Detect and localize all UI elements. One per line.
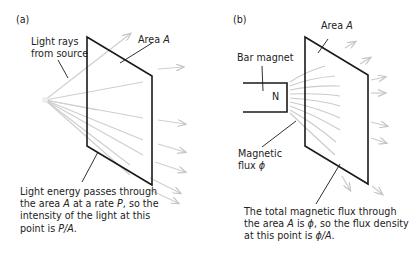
caption-a-line3: intensity of the light at this: [20, 210, 159, 222]
caption-text: the area: [20, 198, 63, 209]
label-area-a: Area A: [138, 34, 170, 46]
caption-text: point is: [20, 223, 58, 234]
label-bar-magnet: Bar magnet: [237, 52, 294, 64]
label-light-rays-line2: from source: [31, 48, 88, 60]
caption-text: the area: [244, 218, 287, 229]
caption-symbol: P/A: [58, 223, 74, 234]
caption-symbol: A: [63, 198, 70, 209]
label-light-rays: Light rays from source: [31, 36, 88, 60]
label-area-a-symbol: A: [163, 34, 170, 45]
caption-text: , so the: [123, 198, 159, 209]
label-flux-line2: flux ϕ: [238, 160, 282, 172]
caption-symbol: ϕ/A: [315, 230, 331, 241]
caption-a-line1: Light energy passes through: [20, 186, 159, 198]
label-magnetic-flux: Magnetic flux ϕ: [238, 148, 282, 172]
label-flux-line1: Magnetic: [238, 148, 282, 160]
caption-text: , so the flux density: [314, 218, 409, 229]
caption-text: at a rate: [70, 198, 117, 209]
caption-a-line4: point is P/A.: [20, 223, 159, 235]
caption-b: The total magnetic flux through the area…: [244, 206, 409, 243]
caption-b-line2: the area A is ϕ, so the flux density: [244, 218, 409, 230]
panel-a-tag: (a): [16, 14, 29, 26]
caption-text: .: [74, 223, 77, 234]
caption-b-line1: The total magnetic flux through: [244, 206, 409, 218]
label-flux-symbol: ϕ: [259, 160, 265, 171]
label-flux-text: flux: [238, 160, 259, 171]
label-area-b: Area A: [321, 20, 353, 32]
label-area-a-text: Area: [138, 34, 163, 45]
label-area-b-symbol: A: [346, 20, 353, 31]
caption-symbol: A: [287, 218, 294, 229]
caption-text: .: [332, 230, 335, 241]
caption-a: Light energy passes through the area A a…: [20, 186, 159, 235]
bar-magnet: [243, 83, 287, 112]
magnet-pole-label: N: [272, 91, 279, 103]
caption-b-line3: at this point is ϕ/A.: [244, 230, 409, 242]
panel-b-tag: (b): [233, 14, 247, 26]
caption-a-line2: the area A at a rate P, so the: [20, 198, 159, 210]
area-plate-b: [305, 37, 368, 184]
caption-text: is: [294, 218, 308, 229]
caption-text: at this point is: [244, 230, 315, 241]
label-area-b-text: Area: [321, 20, 346, 31]
label-light-rays-line1: Light rays: [31, 36, 88, 48]
light-source-icon: [42, 97, 48, 103]
